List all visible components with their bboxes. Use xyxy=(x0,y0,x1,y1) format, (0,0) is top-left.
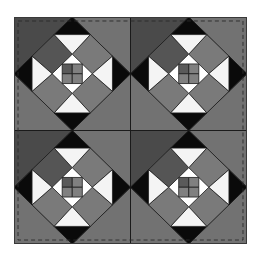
center-quadrant-lower-left xyxy=(62,74,72,84)
quilt-block xyxy=(131,17,248,131)
quilt-block xyxy=(131,131,248,245)
center-quadrant-lower-left xyxy=(62,187,72,197)
center-quadrant-lower-right xyxy=(189,187,199,197)
quilt-block xyxy=(14,17,131,131)
center-quadrant-upper-left xyxy=(179,64,189,74)
center-quadrant-upper-right xyxy=(72,64,82,74)
center-quadrant-upper-right xyxy=(189,177,199,187)
center-quadrant-lower-right xyxy=(72,74,82,84)
center-quadrant-lower-right xyxy=(189,74,199,84)
center-quadrant-lower-right xyxy=(72,187,82,197)
center-quadrant-lower-left xyxy=(179,74,189,84)
center-quadrant-lower-left xyxy=(179,187,189,197)
center-quadrant-upper-left xyxy=(62,64,72,74)
center-quadrant-upper-left xyxy=(62,177,72,187)
quilt-figure xyxy=(14,17,247,244)
center-quadrant-upper-right xyxy=(189,64,199,74)
quilt-blocks xyxy=(14,17,247,244)
center-quadrant-upper-left xyxy=(179,177,189,187)
quilt-block xyxy=(14,131,131,245)
center-quadrant-upper-right xyxy=(72,177,82,187)
